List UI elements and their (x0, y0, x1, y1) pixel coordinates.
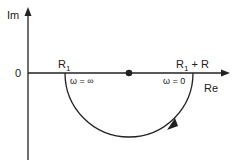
omega-zero-label: ω = 0 (163, 76, 185, 86)
im-axis-label: Im (7, 9, 19, 21)
real-axis-arrow-icon (221, 70, 230, 77)
omega-infinity-label: ω = ∞ (70, 76, 94, 86)
origin-label: 0 (15, 67, 21, 79)
imaginary-axis-arrow-icon (25, 7, 32, 16)
plus-r-text: + R (188, 58, 209, 70)
diagram-canvas: Im Re 0 R1 R1 + R ω = ∞ ω = 0 (0, 0, 241, 164)
nyquist-diagram: Im Re 0 R1 R1 + R ω = ∞ ω = 0 (0, 0, 241, 164)
re-axis-label: Re (204, 82, 218, 94)
center-point (126, 70, 133, 77)
r1-text: R (58, 58, 66, 70)
r1-plus-r-label: R1 + R (176, 58, 209, 73)
r1-label: R1 (58, 58, 71, 73)
r1-subscript: 1 (66, 64, 71, 73)
r1-plus-r-text: R (176, 58, 184, 70)
